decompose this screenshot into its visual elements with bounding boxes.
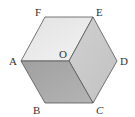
- vertex-label-o: O: [59, 48, 67, 60]
- vertex-label-c: C: [96, 104, 104, 116]
- hexagon-diagram: F E A O D B C: [0, 0, 135, 117]
- vertex-label-b: B: [33, 104, 40, 116]
- vertex-label-e: E: [96, 6, 103, 18]
- vertex-label-d: D: [120, 55, 128, 67]
- vertex-label-f: F: [35, 6, 41, 18]
- vertex-label-a: A: [9, 55, 17, 67]
